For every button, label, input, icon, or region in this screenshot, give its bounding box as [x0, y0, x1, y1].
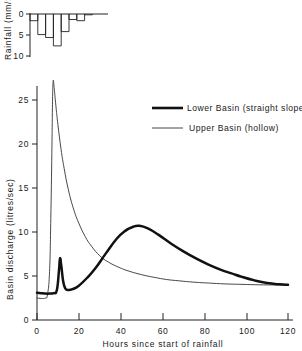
hydrograph-x-axis-title: Hours since start of rainfall	[103, 339, 224, 349]
hydrograph-xtick-100: 100	[239, 326, 255, 336]
chart-legend: Lower Basin (straight slopes) Upper Basi…	[152, 103, 302, 133]
hydrograph-ytick-15: 15	[18, 183, 29, 193]
hyetograph-y-axis-title: Rainfall (mm/2hrs)	[3, 0, 13, 60]
hyetograph-ytick-5: 5	[19, 30, 24, 40]
legend-label-lower-basin: Lower Basin (straight slopes)	[187, 103, 302, 113]
hydrograph-ytick-0: 0	[24, 315, 29, 325]
legend-label-upper-basin: Upper Basin (hollow)	[189, 123, 279, 133]
hyetograph-ytick-0: 0	[19, 9, 24, 19]
hydrograph-y-ticks	[32, 100, 37, 320]
hydrograph-xtick-120: 120	[280, 326, 296, 336]
legend-item-upper-basin: Upper Basin (hollow)	[152, 123, 279, 133]
hyetograph-ytick-10: 10	[13, 51, 24, 61]
hyetograph-panel: Rainfall (mm/2hrs) 0 5 10	[3, 0, 108, 61]
hydrograph-xtick-20: 20	[74, 326, 85, 336]
hydrograph-ytick-5: 5	[24, 271, 29, 281]
hydrograph-xtick-40: 40	[116, 326, 127, 336]
hyetograph-y-ticks	[26, 14, 30, 56]
rainfall-runoff-chart: Rainfall (mm/2hrs) 0 5 10 Basin discharg…	[0, 0, 302, 351]
hydrograph-xtick-80: 80	[200, 326, 211, 336]
hydrograph-ytick-20: 20	[18, 139, 29, 149]
hydrograph-y-axis-title: Basin discharge (litres/sec)	[5, 178, 15, 300]
hydrograph-xtick-60: 60	[158, 326, 169, 336]
hyetograph-bars	[30, 14, 92, 46]
hydrograph-ytick-10: 10	[18, 227, 29, 237]
legend-item-lower-basin: Lower Basin (straight slopes)	[152, 103, 302, 113]
hydrograph-x-ticks	[37, 313, 288, 320]
figure-container: Rainfall (mm/2hrs) 0 5 10 Basin discharg…	[0, 0, 302, 351]
hydrograph-ytick-25: 25	[18, 95, 29, 105]
series-line-lower-basin	[37, 226, 288, 294]
hydrograph-panel: Basin discharge (litres/sec) 0 5 10 15 2…	[5, 80, 296, 349]
hydrograph-xtick-0: 0	[34, 326, 39, 336]
